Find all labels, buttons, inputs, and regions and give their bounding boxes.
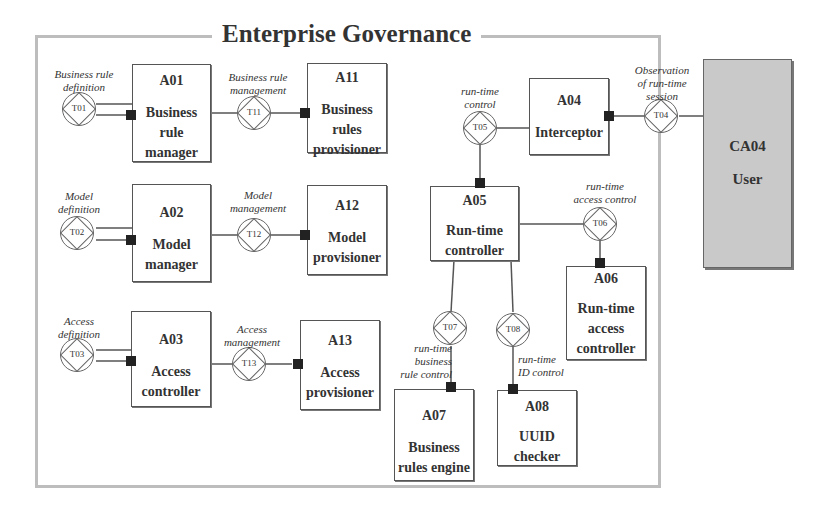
- transaction-id: T05: [464, 122, 496, 132]
- actor-label-line: Interceptor: [530, 123, 608, 143]
- transaction-id: T13: [233, 358, 265, 368]
- caption-line: Model: [218, 189, 298, 202]
- transaction-id: T11: [238, 107, 270, 117]
- actor-id: A07: [395, 408, 473, 424]
- caption-line: run-time: [565, 180, 645, 193]
- port-a07: [446, 382, 456, 392]
- actor-id: A11: [308, 70, 386, 86]
- actor-label-line: Access: [132, 362, 210, 382]
- actor-a06[interactable]: A06 Run-time access controller: [566, 266, 646, 360]
- transaction-t12[interactable]: T12: [237, 218, 271, 252]
- actor-label-line: provisioner: [308, 248, 386, 268]
- actor-label-line: rules: [308, 120, 386, 140]
- caption-line: rule control: [392, 368, 452, 381]
- transaction-t06[interactable]: T06: [583, 207, 617, 241]
- caption-t04: Observation of run-time session: [622, 64, 702, 103]
- caption-line: management: [218, 202, 298, 215]
- diagram-title: Enterprise Governance: [212, 20, 481, 48]
- caption-line: definition: [44, 81, 124, 94]
- caption-line: Access: [44, 315, 114, 328]
- caption-t11: Business rule management: [218, 71, 298, 97]
- actor-label-line: access: [567, 319, 645, 339]
- actor-id: A03: [132, 332, 210, 348]
- caption-line: ID control: [518, 366, 578, 379]
- port-a12: [300, 230, 310, 240]
- actor-label-line: controller: [567, 339, 645, 359]
- port-a01: [126, 110, 136, 120]
- caption-line: management: [212, 336, 292, 349]
- port-a06: [595, 258, 605, 268]
- caption-line: business: [392, 355, 452, 368]
- actor-id: A13: [301, 333, 379, 349]
- actor-label-line: controller: [431, 241, 518, 261]
- caption-line: management: [218, 84, 298, 97]
- caption-line: control: [450, 98, 510, 111]
- actor-a13[interactable]: A13 Access provisioner: [300, 320, 380, 410]
- actor-label-line: User: [704, 169, 791, 189]
- actor-label-line: Business: [133, 103, 210, 123]
- caption-t03: Access definition: [44, 315, 114, 341]
- caption-t08: run-time ID control: [518, 353, 578, 379]
- actor-a02[interactable]: A02 Model manager: [132, 184, 211, 282]
- port-a02: [126, 235, 136, 245]
- actor-a05[interactable]: A05 Run-time controller: [430, 186, 519, 261]
- transaction-id: T04: [645, 110, 677, 120]
- actor-id: A05: [431, 193, 518, 209]
- caption-line: Model: [44, 190, 114, 203]
- actor-a03[interactable]: A03 Access controller: [131, 311, 211, 407]
- transaction-id: T08: [497, 324, 529, 334]
- actor-label-line: Business: [308, 100, 386, 120]
- transaction-id: T02: [61, 227, 93, 237]
- transaction-t05[interactable]: T05: [463, 111, 497, 145]
- actor-id: A08: [498, 399, 576, 415]
- transaction-id: T06: [584, 218, 616, 228]
- caption-line: run-time: [392, 342, 452, 355]
- actor-label-line: provisioner: [308, 140, 386, 160]
- port-a04: [604, 111, 614, 121]
- actor-a01[interactable]: A01 Business rule manager: [132, 64, 211, 162]
- transaction-t11[interactable]: T11: [237, 96, 271, 130]
- port-a08: [508, 384, 518, 394]
- port-a13: [293, 359, 303, 369]
- transaction-t08[interactable]: T08: [496, 313, 530, 347]
- caption-line: definition: [44, 328, 114, 341]
- caption-t13: Access management: [212, 323, 292, 349]
- caption-t12: Model management: [218, 189, 298, 215]
- transaction-t07[interactable]: T07: [433, 311, 467, 345]
- actor-label-line: provisioner: [301, 383, 379, 403]
- actor-label-line: Model: [308, 228, 386, 248]
- actor-a12[interactable]: A12 Model provisioner: [307, 185, 387, 275]
- transaction-id: T01: [63, 103, 95, 113]
- caption-line: run-time: [518, 353, 578, 366]
- transaction-t02[interactable]: T02: [60, 216, 94, 250]
- actor-label-line: rules engine: [395, 458, 473, 478]
- caption-t07: run-time business rule control: [392, 342, 452, 381]
- actor-a04[interactable]: A04 Interceptor: [529, 78, 609, 155]
- transaction-id: T12: [238, 229, 270, 239]
- actor-label-line: Access: [301, 363, 379, 383]
- port-a03: [126, 356, 136, 366]
- caption-line: Business rule: [218, 71, 298, 84]
- actor-id: A01: [133, 73, 210, 89]
- caption-line: session: [622, 90, 702, 103]
- actor-label-line: checker: [498, 447, 576, 467]
- transaction-id: T03: [61, 349, 93, 359]
- actor-label-line: rule: [133, 123, 210, 143]
- transaction-t03[interactable]: T03: [60, 338, 94, 372]
- actor-ca04-user[interactable]: CA04 User: [703, 59, 792, 268]
- caption-line: run-time: [450, 85, 510, 98]
- transaction-t04[interactable]: T04: [644, 99, 678, 133]
- caption-line: Access: [212, 323, 292, 336]
- caption-t02: Model definition: [44, 190, 114, 216]
- transaction-t01[interactable]: T01: [62, 92, 96, 126]
- transaction-t13[interactable]: T13: [232, 347, 266, 381]
- actor-label-line: Run-time: [431, 221, 518, 241]
- actor-a08[interactable]: A08 UUID checker: [497, 390, 577, 466]
- actor-label-line: Business: [395, 438, 473, 458]
- caption-t05: run-time control: [450, 85, 510, 111]
- actor-a11[interactable]: A11 Business rules provisioner: [307, 63, 387, 153]
- actor-a07[interactable]: A07 Business rules engine: [394, 389, 474, 481]
- actor-id: A02: [133, 205, 210, 221]
- actor-label-line: manager: [133, 255, 210, 275]
- actor-id: A04: [530, 93, 608, 109]
